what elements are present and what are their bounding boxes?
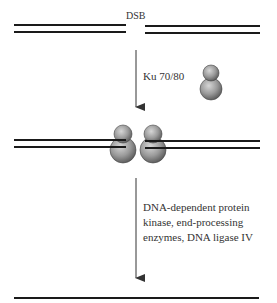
broken-dna <box>14 25 260 33</box>
step2-label: DNA-dependent protein kinase, end-proces… <box>143 200 273 245</box>
step2-label-line: enzymes, DNA ligase IV <box>143 230 273 245</box>
ku-protein-left-icon <box>110 125 136 163</box>
step2-label-line: kinase, end-processing <box>143 215 273 230</box>
ku-protein-right-icon <box>140 125 166 163</box>
nhej-diagram <box>0 0 277 303</box>
step2-label-line: DNA-dependent protein <box>143 200 273 215</box>
ku-label: Ku 70/80 <box>143 69 184 84</box>
dsb-label: DSB <box>126 8 145 23</box>
ku-bound-dna <box>14 125 260 163</box>
ku-protein-icon <box>200 65 222 100</box>
